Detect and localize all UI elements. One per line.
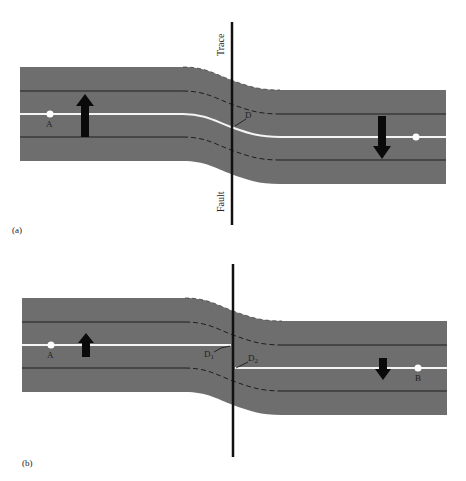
point-label-a-b: A — [47, 351, 54, 360]
displacement-label-d1: D1 — [204, 350, 214, 361]
panel-b — [22, 264, 447, 457]
fault-label-trace: Trace — [216, 34, 226, 56]
point-a-left-marker — [47, 111, 54, 118]
point-label-b: B — [415, 374, 421, 383]
displacement-label-d2: D2 — [248, 354, 258, 365]
point-a-right-marker — [413, 134, 420, 141]
panel-label-a: (a) — [12, 226, 22, 235]
fault-offset-diagram — [0, 0, 466, 481]
point-a-marker-b — [48, 342, 55, 349]
point-b-marker — [415, 365, 422, 372]
displacement-label-d: D — [245, 111, 252, 120]
d2-subscript: 2 — [255, 357, 259, 365]
panel-a — [20, 22, 446, 225]
panel-label-b: (b) — [22, 459, 33, 468]
point-label-a: A — [46, 120, 53, 129]
d1-subscript: 1 — [211, 353, 215, 361]
fault-label-fault: Fault — [216, 191, 226, 212]
